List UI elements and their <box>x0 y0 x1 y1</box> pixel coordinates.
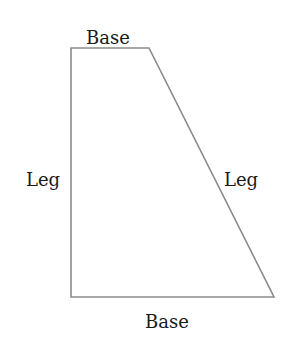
right-leg-label: Leg <box>224 169 258 190</box>
trapezoid-diagram: Base Leg Leg Base <box>0 0 293 342</box>
top-base-label: Base <box>86 27 130 48</box>
left-leg-label: Leg <box>26 169 60 190</box>
bottom-base-label: Base <box>145 311 189 332</box>
